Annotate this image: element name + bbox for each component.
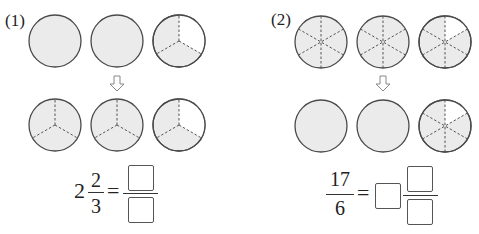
eq1-numerator: 2 [89, 170, 103, 190]
eq1-answer-fraction-bar [123, 193, 158, 194]
p1-bottom-circle-3 [153, 99, 205, 151]
p2-bottom-circle-3 [419, 100, 471, 152]
eq1-whole: 2 [74, 180, 85, 202]
p1-bottom-circle-1 [29, 99, 81, 151]
p1-top-circle-3 [153, 15, 205, 67]
p1-bottom-circle-2 [91, 99, 143, 151]
eq1-fraction-bar [88, 192, 104, 193]
p2-top-circle-1 [295, 16, 347, 68]
eq1-answer-denominator-box[interactable] [128, 197, 154, 223]
p2-bottom-circle-1 [295, 100, 347, 152]
eq2-answer-fraction-bar [403, 195, 438, 196]
p2-top-circle-3 [419, 16, 471, 68]
eq1-equals: = [107, 180, 119, 202]
eq2-answer-whole-box[interactable] [375, 183, 401, 209]
p2-bottom-circle-2 [357, 100, 409, 152]
eq2-fraction-bar [326, 194, 354, 195]
p1-top-circle-1 [29, 15, 81, 67]
eq2-denominator: 6 [327, 198, 353, 218]
eq1-answer-numerator-box[interactable] [128, 165, 154, 191]
p1-down-arrow-icon [110, 76, 124, 91]
eq2-equals: = [357, 182, 369, 204]
eq2-numerator: 17 [327, 169, 353, 189]
eq2-answer-numerator-box[interactable] [407, 166, 433, 192]
p1-top-circle-2 [91, 15, 143, 67]
p2-top-circle-2 [357, 16, 409, 68]
eq1-denominator: 3 [89, 196, 103, 216]
eq2-answer-denominator-box[interactable] [407, 199, 433, 225]
p2-down-arrow-icon [376, 76, 390, 91]
